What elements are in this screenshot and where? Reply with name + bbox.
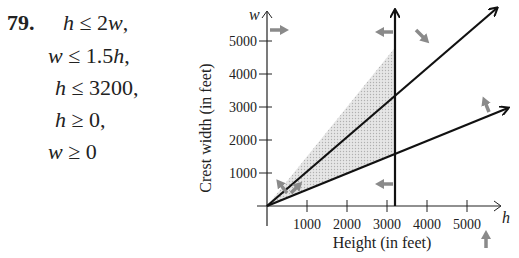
feasible-region-fill xyxy=(267,48,395,206)
h-tick-label: 4000 xyxy=(413,217,441,232)
feasible-region xyxy=(267,48,395,206)
w-axis-title: Crest width (in feet) xyxy=(197,63,215,192)
h-tick-label: 3000 xyxy=(373,217,401,232)
feasible-region-chart: 1000200030004000500010002000300040005000… xyxy=(0,0,519,258)
w-tick-label: 2000 xyxy=(229,133,257,148)
w-tick-label: 4000 xyxy=(229,67,257,82)
h-tick-label: 2000 xyxy=(333,217,361,232)
w-le-1.5h-arrow xyxy=(416,30,425,39)
h-le-2w-arrow xyxy=(485,102,489,112)
w-tick-label: 5000 xyxy=(229,34,257,49)
w-axis-var: w xyxy=(249,6,260,23)
h-tick-label: 1000 xyxy=(293,217,321,232)
w-tick-label: 1000 xyxy=(229,166,257,181)
h-axis-var: h xyxy=(502,209,510,226)
h-tick-label: 5000 xyxy=(453,217,481,232)
w-tick-label: 3000 xyxy=(229,100,257,115)
h-axis-title: Height (in feet) xyxy=(333,234,432,252)
line-w-1.5h xyxy=(267,8,497,206)
